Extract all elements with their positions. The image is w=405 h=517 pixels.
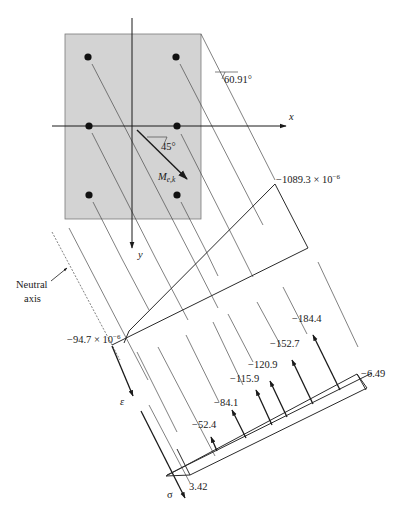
stress-diagram: σ 3.42 −6.49 −52.4 −84.1 −115.9 −120.9 −… — [141, 313, 385, 500]
bar-middle-right — [173, 122, 180, 129]
force-label: −184.4 — [292, 313, 322, 324]
bar-force-labels: −52.4 −84.1 −115.9 −120.9 −152.7 −184.4 — [192, 313, 322, 430]
neutral-axis-angle-label: 60.91° — [224, 74, 252, 85]
neutral-axis-label-line1: Neutral — [16, 279, 48, 290]
x-axis-label: x — [288, 111, 294, 122]
force-label: −84.1 — [214, 397, 238, 408]
neutral-axis-callout: Neutral axis — [16, 268, 67, 304]
biaxial-bending-diagram: x y 45° Me,k 60.91° Neutral axis ε −1089… — [0, 0, 405, 517]
neutral-axis-label-line2: axis — [24, 293, 41, 304]
bar-top-left — [84, 53, 91, 60]
max-strain-label: −1089.3 × 10−6 — [276, 173, 340, 185]
y-axis-label: y — [137, 249, 143, 260]
moment-angle-label: 45° — [161, 141, 176, 152]
strain-axis-arrow — [112, 346, 133, 396]
stress-symbol: σ — [167, 489, 173, 500]
force-label: −115.9 — [230, 373, 259, 384]
force-label: −152.7 — [270, 338, 300, 349]
bar-bottom-right — [173, 191, 180, 198]
force-label: −120.9 — [248, 359, 278, 370]
bar-bottom-left — [85, 191, 92, 198]
bar-top-right — [172, 53, 179, 60]
strain-symbol: ε — [120, 396, 125, 407]
min-strain-label: −94.7 × 10−6 — [67, 333, 121, 345]
stress-top-value: −6.49 — [361, 368, 385, 379]
neutral-axis-angle: 60.91° — [215, 72, 252, 85]
force-label: −52.4 — [192, 419, 217, 430]
stress-bottom-value: 3.42 — [189, 481, 207, 492]
bar-middle-left — [85, 122, 92, 129]
stress-axis-arrow — [141, 411, 185, 498]
